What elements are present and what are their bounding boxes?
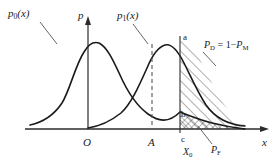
tick-label-A: A (148, 137, 155, 148)
p1-curve-label: p1(x) (117, 10, 138, 21)
p0-label-leader (40, 22, 57, 44)
p1-label-leader (133, 24, 148, 44)
point-b-label: b (181, 110, 186, 119)
origin-label: O (83, 137, 91, 148)
y-axis (85, 16, 91, 129)
threshold-label: X0 (183, 147, 193, 157)
point-c-label: c (181, 135, 185, 144)
detection-probability-label: PD = 1−PM (204, 40, 248, 50)
detection-label-leader (203, 52, 216, 66)
false-alarm-probability-label: PF (211, 145, 221, 155)
p0-curve-label: p0(x) (8, 8, 29, 19)
point-a-label: a (183, 33, 187, 42)
x-axis-label: x (262, 137, 267, 148)
figure-canvas (0, 0, 279, 166)
y-axis-label: p (78, 10, 84, 21)
detection-probability-figure: p0(x) p1(x) p x O A X0 a b c PD = 1−PM P… (0, 0, 279, 166)
